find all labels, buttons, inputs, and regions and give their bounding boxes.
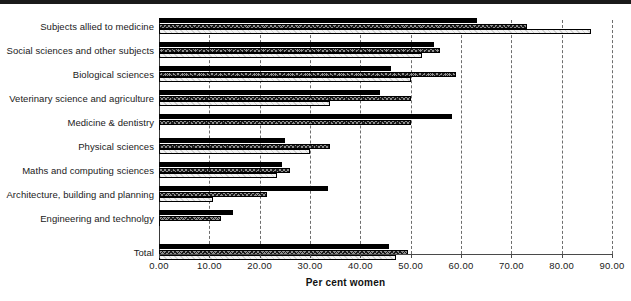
tick-mark-90.00 <box>612 254 613 258</box>
tick-mark-60.00 <box>461 254 462 258</box>
gridline-70.00 <box>511 20 512 254</box>
bar <box>159 162 282 167</box>
x-tick-label: 10.00 <box>197 260 222 271</box>
bar <box>159 173 277 178</box>
category-label: Biological sciences <box>0 69 154 80</box>
bar <box>159 144 330 149</box>
bar <box>159 244 389 249</box>
x-tick-label: 50.00 <box>398 260 423 271</box>
tick-mark-0.00 <box>159 254 160 258</box>
bar <box>159 168 290 173</box>
category-label: Total <box>0 247 154 258</box>
tick-mark-70.00 <box>511 254 512 258</box>
bar <box>159 72 456 77</box>
x-tick-label: 90.00 <box>600 260 625 271</box>
bar <box>159 210 233 215</box>
bar <box>159 120 411 125</box>
tick-mark-80.00 <box>562 254 563 258</box>
tick-mark-40.00 <box>360 254 361 258</box>
gridline-90.00 <box>612 20 613 254</box>
bar <box>159 114 452 119</box>
bar <box>159 90 380 95</box>
category-label: Social sciences and other subjects <box>0 45 154 56</box>
bar <box>159 101 330 106</box>
x-axis-line <box>159 254 612 255</box>
bar <box>159 138 285 143</box>
bar <box>159 42 434 47</box>
category-label: Medicine & dentistry <box>0 117 154 128</box>
x-tick-label: 30.00 <box>298 260 323 271</box>
bar <box>159 149 310 154</box>
category-label: Veterinary science and agriculture <box>0 93 154 104</box>
tick-mark-30.00 <box>310 254 311 258</box>
bar <box>159 186 328 191</box>
category-label: Subjects allied to medicine <box>0 21 154 32</box>
bar <box>159 18 477 23</box>
top-rule-divider <box>0 0 631 4</box>
bar <box>159 66 391 71</box>
plot-area <box>159 20 612 254</box>
gridline-80.00 <box>562 20 563 254</box>
tick-mark-50.00 <box>411 254 412 258</box>
category-label: Physical sciences <box>0 141 154 152</box>
bar-chart-figure: 0.0010.0020.0030.0040.0050.0060.0070.008… <box>0 6 631 301</box>
category-label: Maths and computing sciences <box>0 165 154 176</box>
gridline-60.00 <box>461 20 462 254</box>
bar <box>159 24 527 29</box>
bar <box>159 216 221 221</box>
x-axis-title-text: Per cent women <box>306 277 386 288</box>
x-tick-label: 0.00 <box>149 260 168 271</box>
category-label: Engineering and technolgy <box>0 213 154 224</box>
bar <box>159 29 591 34</box>
x-axis-title: Per cent women <box>0 277 631 288</box>
x-tick-label: 70.00 <box>499 260 524 271</box>
bar <box>159 192 267 197</box>
x-tick-label: 40.00 <box>348 260 373 271</box>
bar <box>159 221 160 226</box>
x-tick-label: 60.00 <box>449 260 474 271</box>
bar <box>159 77 411 82</box>
x-tick-label: 80.00 <box>549 260 574 271</box>
bar <box>159 53 422 58</box>
bar <box>159 48 440 53</box>
tick-mark-20.00 <box>260 254 261 258</box>
category-label: Architecture, building and planning <box>0 189 154 200</box>
bar <box>159 96 411 101</box>
bar <box>159 125 160 130</box>
x-tick-label: 20.00 <box>247 260 272 271</box>
tick-mark-10.00 <box>209 254 210 258</box>
bar <box>159 197 213 202</box>
